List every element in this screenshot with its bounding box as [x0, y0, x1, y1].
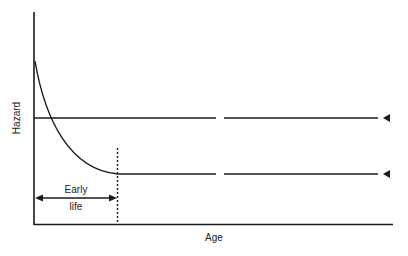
constant-hazard-arrow-icon	[383, 114, 390, 122]
early-life-label-line2: life	[70, 201, 83, 212]
hazard-diagram: Hazard Age Early life	[0, 0, 408, 256]
arrowhead-right-icon	[109, 195, 117, 202]
arrowhead-left-icon	[35, 195, 43, 202]
constant-hazard-line	[34, 114, 390, 122]
early-life-label-line1: Early	[65, 184, 88, 195]
y-axis-label: Hazard	[11, 102, 22, 134]
decreasing-hazard-line	[35, 61, 390, 178]
x-axis-label: Age	[205, 232, 223, 243]
decreasing-hazard-arrow-icon	[383, 170, 390, 178]
